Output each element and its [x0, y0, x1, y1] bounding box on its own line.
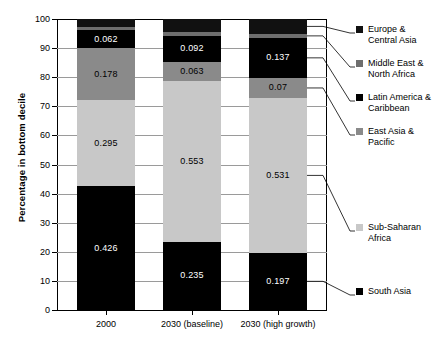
x-axis-label: 2030 (high growth): [235, 319, 321, 330]
bar-segment[interactable]: 0.137: [249, 38, 307, 78]
bar-segment-value-label: 0.426: [94, 244, 118, 253]
bar[interactable]: 0.0920.0630.5530.2352030 (baseline): [163, 19, 221, 310]
y-tick-mark: [52, 48, 57, 49]
y-tick-label: 80: [40, 72, 50, 82]
bar-segment[interactable]: [77, 19, 135, 27]
y-tick-mark: [52, 281, 57, 282]
legend-label: Europe & Central Asia: [368, 24, 417, 45]
y-tick-label: 60: [40, 130, 50, 140]
legend-item[interactable]: East Asia & Pacific: [356, 126, 414, 147]
legend-swatch: [356, 60, 363, 67]
legend-item[interactable]: Latin America & Caribbean: [356, 92, 431, 113]
legend-item[interactable]: South Asia: [356, 286, 411, 297]
bar-segment-value-label: 0.235: [180, 271, 204, 280]
y-tick-mark: [52, 19, 57, 20]
bar-segment[interactable]: [163, 19, 221, 32]
bar-segment[interactable]: 0.531: [249, 98, 307, 253]
bar-segment[interactable]: 0.062: [77, 30, 135, 48]
bar-segment[interactable]: 0.553: [163, 81, 221, 242]
bar-segment[interactable]: 0.426: [77, 186, 135, 310]
bar-segment[interactable]: 0.235: [163, 242, 221, 310]
x-axis-label: 2030 (baseline): [149, 319, 235, 330]
legend-item[interactable]: Sub-Saharan Africa: [356, 222, 421, 243]
y-tick-label: 90: [40, 43, 50, 53]
bar-segment-value-label: 0.07: [269, 83, 287, 92]
bar-segment-value-label: 0.197: [266, 277, 290, 286]
y-tick-mark: [52, 106, 57, 107]
y-tick-label: 50: [40, 160, 50, 170]
bar-segment[interactable]: 0.295: [77, 100, 135, 186]
bar-segment-value-label: 0.063: [180, 67, 204, 76]
plot-area: 1009080706050403020100 0.0620.1780.2950.…: [57, 19, 327, 311]
stacked-bar-chart: Percentage in bottom decile 100908070605…: [0, 0, 447, 351]
y-tick-mark: [52, 165, 57, 166]
y-tick-label: 40: [40, 189, 50, 199]
y-tick-mark: [52, 252, 57, 253]
y-tick-mark: [52, 223, 57, 224]
legend-item[interactable]: Middle East & North Africa: [356, 58, 424, 79]
legend-swatch: [356, 224, 363, 231]
legend-swatch: [356, 94, 363, 101]
bar-segment-value-label: 0.092: [180, 44, 204, 53]
bar-segment[interactable]: 0.063: [163, 62, 221, 80]
bar-segment-value-label: 0.553: [180, 157, 204, 166]
legend-label: East Asia & Pacific: [368, 126, 414, 147]
y-tick-label: 0: [45, 305, 50, 315]
legend-swatch: [356, 26, 363, 33]
legend-label: South Asia: [368, 286, 411, 297]
bar[interactable]: 0.0620.1780.2950.4262000: [77, 19, 135, 310]
bar-segment[interactable]: 0.197: [249, 253, 307, 310]
legend-item[interactable]: Europe & Central Asia: [356, 24, 417, 45]
y-tick-mark: [52, 135, 57, 136]
y-tick-mark: [52, 310, 57, 311]
x-tick-mark: [192, 310, 193, 315]
y-tick-mark: [52, 194, 57, 195]
bar-segment[interactable]: 0.07: [249, 78, 307, 98]
bar-segment-value-label: 0.531: [266, 171, 290, 180]
y-tick-label: 10: [40, 276, 50, 286]
legend-label: Middle East & North Africa: [368, 58, 424, 79]
legend-label: Latin America & Caribbean: [368, 92, 431, 113]
bar[interactable]: 0.1370.070.5310.1972030 (high growth): [249, 19, 307, 310]
bar-segment[interactable]: [249, 19, 307, 34]
y-tick-label: 100: [35, 14, 50, 24]
bar-segment-value-label: 0.295: [94, 139, 118, 148]
legend-label: Sub-Saharan Africa: [368, 222, 421, 243]
y-tick-label: 30: [40, 218, 50, 228]
x-axis-label: 2000: [63, 319, 149, 330]
bar-segment[interactable]: 0.178: [77, 48, 135, 100]
bar-segment[interactable]: 0.092: [163, 36, 221, 63]
x-tick-mark: [106, 310, 107, 315]
legend-swatch: [356, 288, 363, 295]
y-axis-title: Percentage in bottom decile: [16, 58, 27, 258]
y-tick-label: 20: [40, 247, 50, 257]
bar-segment-value-label: 0.178: [94, 70, 118, 79]
y-tick-label: 70: [40, 101, 50, 111]
legend-swatch: [356, 128, 363, 135]
y-tick-mark: [52, 77, 57, 78]
chart-legend: Europe & Central AsiaMiddle East & North…: [356, 14, 447, 344]
bar-segment-value-label: 0.062: [94, 35, 118, 44]
x-tick-mark: [278, 310, 279, 315]
bar-segment-value-label: 0.137: [266, 53, 290, 62]
